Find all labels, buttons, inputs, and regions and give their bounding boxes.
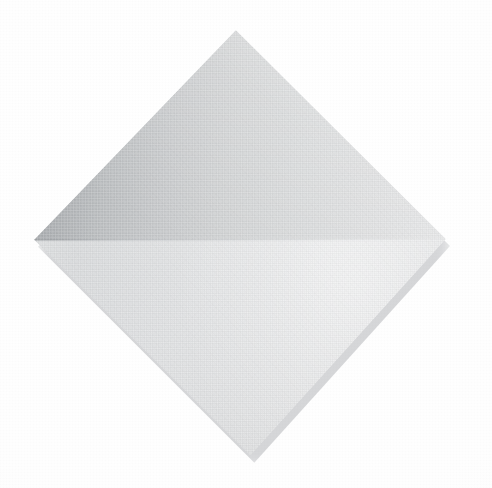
folded-napkin bbox=[34, 30, 446, 460]
cloth-weave-highlight bbox=[34, 30, 446, 460]
photo-canvas bbox=[0, 0, 492, 488]
napkin-group bbox=[0, 0, 492, 488]
